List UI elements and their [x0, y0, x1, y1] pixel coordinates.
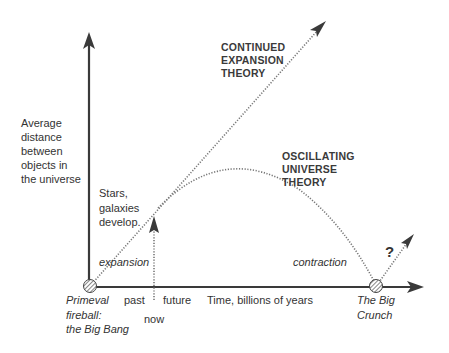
y-axis-label: Average distance between objects in the … [21, 116, 81, 186]
origin-label-line: Primeval [66, 293, 129, 308]
question-mark: ? [385, 245, 394, 259]
expansion-label: expansion [99, 255, 149, 269]
big-bang-circle-icon [84, 280, 97, 293]
stars-label-line: Stars, [99, 186, 141, 201]
y-axis-label-line: Average [21, 116, 81, 130]
big-crunch-circle-icon [370, 280, 383, 293]
y-axis [83, 32, 95, 287]
big-crunch-label-line: Crunch [357, 308, 395, 323]
stars-galaxies-label: Stars, galaxies develop. [99, 186, 141, 230]
oscillating-universe-theory-label: OSCILLATING UNIVERSE THEORY [282, 150, 355, 189]
x-axis-label: Time, billions of years [207, 293, 313, 307]
contraction-label: contraction [293, 255, 347, 269]
post-crunch-arrowhead-icon [401, 234, 414, 249]
now-label: now [144, 312, 164, 326]
past-label: past [124, 293, 145, 307]
stars-label-line: develop. [99, 215, 141, 230]
origin-label-line: the Big Bang [66, 322, 129, 337]
theory-label-line: OSCILLATING [282, 150, 355, 163]
origin-label-line: fireball: [66, 308, 129, 323]
y-axis-label-line: distance [21, 130, 81, 144]
origin-label: Primeval fireball: the Big Bang [66, 293, 129, 337]
stars-label-line: galaxies [99, 201, 141, 216]
theory-label-line: THEORY [282, 176, 355, 189]
theory-label-line: CONTINUED [221, 41, 285, 54]
theory-label-line: UNIVERSE [282, 163, 355, 176]
post-crunch-line [377, 234, 414, 285]
theory-label-line: THEORY [221, 67, 285, 80]
y-axis-label-line: between [21, 144, 81, 158]
theory-label-line: EXPANSION [221, 54, 285, 67]
big-crunch-label: The Big Crunch [357, 293, 395, 322]
continued-expansion-theory-label: CONTINUED EXPANSION THEORY [221, 41, 285, 80]
y-axis-label-line: objects in [21, 158, 81, 172]
expansion-arrowhead-icon [310, 21, 326, 37]
y-axis-label-line: the universe [21, 172, 81, 186]
big-crunch-label-line: The Big [357, 293, 395, 308]
future-label: future [163, 293, 191, 307]
